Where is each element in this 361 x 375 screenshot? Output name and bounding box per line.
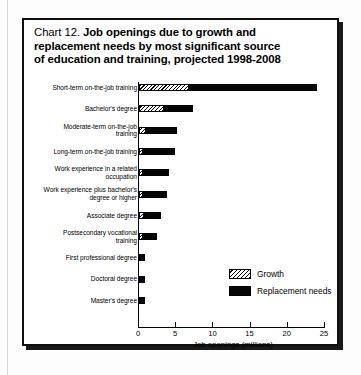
bar-segment-growth — [139, 84, 189, 91]
x-axis-tick-label: 15 — [245, 329, 253, 338]
category-label: Short-term on-the-job training — [24, 84, 140, 92]
category-label: Associate degree — [24, 212, 140, 220]
x-axis-tick — [287, 322, 288, 327]
category-label-line: Associate degree — [24, 212, 137, 220]
legend-item-replacement: Replacement needs — [229, 285, 349, 296]
page-margin-rule — [7, 0, 8, 375]
legend-label-replacement: Replacement needs — [257, 286, 332, 296]
category-label: Bachelor's degree — [24, 105, 140, 113]
chart-title-line3: of education and training, projected 199… — [34, 53, 281, 65]
x-axis-title: Job openings (millions) — [138, 340, 328, 349]
x-axis-line — [138, 327, 325, 328]
x-axis-tick — [324, 322, 325, 327]
bar-segment-replacement — [143, 191, 167, 198]
x-axis-tick — [250, 322, 251, 327]
plot-area: Short-term on-the-job trainingBachelor's… — [24, 82, 337, 344]
chart-figure: Chart 12. Job openings due to growth and… — [22, 18, 339, 346]
bar-segment-replacement — [164, 105, 193, 112]
category-label-line: training — [24, 237, 137, 245]
category-label-line: Work experience in a related — [24, 165, 137, 173]
legend-label-growth: Growth — [257, 269, 284, 279]
x-axis-tick-label: 0 — [136, 329, 140, 338]
category-label-line: Long-term on-the-job training — [24, 148, 137, 156]
category-label-line: Moderate-term on-the-job — [24, 123, 137, 131]
x-axis-tick-label: 25 — [320, 329, 328, 338]
category-label: Doctoral degree — [24, 275, 140, 283]
x-axis-tick — [175, 322, 176, 327]
bar-segment-replacement — [189, 84, 317, 91]
chart-number-label: Chart 12. — [34, 26, 80, 38]
category-label: Moderate-term on-the-jobtraining — [24, 123, 140, 138]
bar-segment-replacement — [143, 169, 169, 176]
category-axis-labels: Short-term on-the-job trainingBachelor's… — [24, 82, 140, 320]
category-label: Long-term on-the-job training — [24, 148, 140, 156]
category-label-line: First professional degree — [24, 254, 137, 262]
bar-segment-growth — [139, 105, 164, 112]
category-label-line: Work experience plus bachelor's — [24, 186, 137, 194]
bar-segment-replacement — [146, 127, 177, 134]
category-label-line: Doctoral degree — [24, 275, 137, 283]
x-axis-tick-label: 20 — [283, 329, 291, 338]
category-label-line: degree or higher — [24, 194, 137, 202]
bar-segment-replacement — [144, 212, 161, 219]
category-label: Work experience in a relatedoccupation — [24, 165, 140, 180]
category-label-line: training — [24, 130, 137, 138]
bar-segment-replacement — [141, 276, 145, 283]
category-label-line: Bachelor's degree — [24, 105, 137, 113]
category-label-line: occupation — [24, 173, 137, 181]
category-label: First professional degree — [24, 254, 140, 262]
chart-title: Chart 12. Job openings due to growth and… — [34, 26, 332, 67]
category-label: Work experience plus bachelor'sdegree or… — [24, 186, 140, 201]
x-axis-tick — [138, 322, 139, 327]
bar-segment-growth — [139, 127, 146, 134]
x-axis-tick-label: 5 — [173, 329, 177, 338]
bar-segment-replacement — [141, 254, 145, 261]
legend-swatch-replacement-icon — [229, 286, 251, 296]
chart-legend: Growth Replacement needs — [229, 268, 349, 302]
legend-item-growth: Growth — [229, 268, 349, 279]
x-axis-tick — [212, 322, 213, 327]
chart-title-line1: Job openings due to growth and — [83, 26, 256, 38]
bar-segment-replacement — [143, 233, 157, 240]
bar-segment-replacement — [143, 148, 175, 155]
chart-title-line2: replacement needs by most significant so… — [34, 40, 280, 52]
y-axis-line — [138, 82, 139, 327]
category-label-line: Postsecondary vocational — [24, 229, 137, 237]
legend-swatch-growth-icon — [229, 269, 251, 279]
category-label: Postsecondary vocationaltraining — [24, 229, 140, 244]
bar-segment-replacement — [141, 297, 145, 304]
category-label: Master's degree — [24, 297, 140, 305]
category-label-line: Short-term on-the-job training — [24, 84, 137, 92]
category-label-line: Master's degree — [24, 297, 137, 305]
x-axis-tick-label: 10 — [208, 329, 216, 338]
